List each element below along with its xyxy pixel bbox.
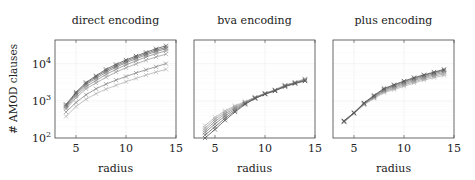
figure: direct encoding radius # AMOD clauses 51…	[0, 0, 475, 180]
panel-plus-encoding: plus encoding radius 51015	[333, 14, 461, 175]
x-tick-label: 5	[73, 142, 80, 155]
x-tick-label: 15	[169, 142, 183, 155]
x-marker-icon	[84, 87, 88, 91]
x-marker-icon	[94, 87, 98, 91]
panel-title: bva encoding	[217, 14, 291, 27]
y-tick-label: 102	[32, 130, 51, 145]
panel-title: direct encoding	[72, 14, 159, 27]
x-marker-icon	[203, 128, 207, 132]
x-tick-label: 15	[447, 142, 461, 155]
x-tick-label: 15	[308, 142, 322, 155]
x-axis-label: radius	[376, 162, 411, 175]
series-group	[64, 44, 168, 119]
x-marker-icon	[84, 93, 88, 97]
x-tick-label: 10	[119, 142, 133, 155]
series-line-s4	[66, 51, 166, 108]
x-marker-icon	[104, 82, 108, 86]
x-tick-label: 5	[212, 142, 219, 155]
series-line-s6	[205, 79, 305, 126]
panel-title: plus encoding	[355, 14, 433, 27]
y-axis-label: # AMOD clauses	[7, 44, 19, 134]
x-tick-label: 10	[258, 142, 272, 155]
x-marker-icon	[104, 87, 108, 91]
series-line-s5	[205, 79, 305, 128]
chart-canvas: direct encoding radius # AMOD clauses 51…	[0, 0, 475, 180]
x-tick-label: 10	[397, 142, 411, 155]
x-marker-icon	[134, 71, 138, 75]
panel-bva-encoding: bva encoding radius 51015	[194, 14, 322, 175]
x-marker-icon	[64, 114, 68, 118]
x-marker-icon	[223, 116, 227, 120]
series-group	[203, 77, 307, 140]
grid	[194, 40, 315, 138]
y-tick-label: 104	[32, 56, 51, 71]
x-tick-label: 5	[351, 142, 358, 155]
x-marker-icon	[144, 68, 148, 72]
panel-direct-encoding: direct encoding radius # AMOD clauses 51…	[7, 14, 183, 175]
series-line-s4	[344, 72, 444, 121]
x-marker-icon	[114, 83, 118, 87]
x-marker-icon	[94, 92, 98, 96]
series-line-s1	[66, 46, 166, 105]
series-line-s3	[66, 49, 166, 107]
series-line-s2	[66, 48, 166, 106]
series-line-s6	[344, 75, 444, 122]
y-tick-label: 103	[32, 93, 51, 108]
axes-frame	[194, 40, 315, 138]
x-axis-label: radius	[98, 162, 133, 175]
series-line-s5	[344, 74, 444, 122]
x-axis-label: radius	[237, 162, 272, 175]
x-marker-icon	[144, 73, 148, 77]
